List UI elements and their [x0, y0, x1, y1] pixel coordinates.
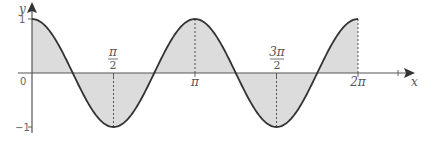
y-tick-label-1: 1 [19, 14, 25, 25]
cosine-chart: y x 0 1 −1 π 2 π 3π 2 2π [0, 0, 435, 146]
pi-half-numerator: π [108, 45, 118, 59]
y-tick-label-neg1: −1 [15, 122, 30, 133]
x-axis-label: x [411, 75, 418, 89]
pi-label: π [190, 75, 200, 89]
three-pi-half-denominator: 2 [274, 59, 281, 72]
three-pi-half-numerator: 3π [269, 45, 286, 59]
pi-half-denominator: 2 [110, 59, 117, 72]
origin-label: 0 [20, 76, 26, 87]
two-pi-label: 2π [349, 75, 367, 89]
